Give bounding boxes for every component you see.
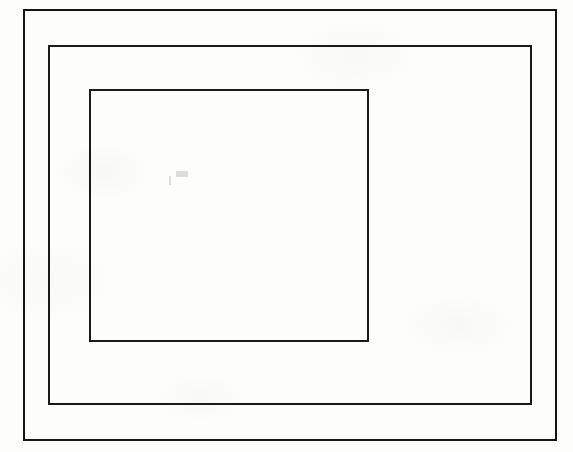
- inner-rectangle: [89, 89, 369, 342]
- figure-canvas: [0, 0, 573, 452]
